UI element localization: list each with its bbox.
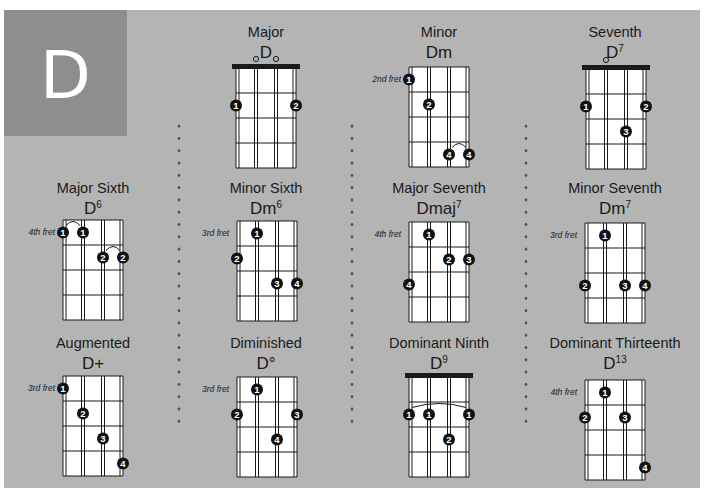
- fret-position-label: 3rd fret: [179, 384, 229, 394]
- finger-dot: 4: [463, 149, 475, 161]
- chord-name-extension: 6: [96, 199, 102, 210]
- finger-dot: 4: [117, 458, 129, 470]
- chord-diagram: 1234: [53, 366, 133, 486]
- svg-text:1: 1: [60, 227, 66, 238]
- svg-text:1: 1: [426, 229, 432, 240]
- svg-text:4: 4: [406, 279, 412, 290]
- finger-dot: 2: [97, 252, 109, 264]
- fret-position-label: 2nd fret: [351, 74, 401, 84]
- svg-text:4: 4: [642, 462, 648, 473]
- dotted-separator: [524, 120, 528, 432]
- svg-text:1: 1: [254, 384, 260, 395]
- chord-title: MajorD: [181, 24, 351, 61]
- svg-text:2: 2: [120, 252, 125, 263]
- svg-text:1: 1: [602, 230, 608, 241]
- chord-name: D13: [530, 351, 700, 372]
- finger-dot: 2: [579, 280, 591, 292]
- nut: [232, 64, 300, 69]
- svg-text:2: 2: [80, 408, 85, 419]
- finger-dot: 4: [271, 434, 283, 446]
- svg-text:4: 4: [642, 280, 648, 291]
- chord-diagram: 1234: [227, 367, 307, 487]
- chord-type-label: Minor Sixth: [181, 180, 351, 196]
- svg-text:1: 1: [233, 100, 239, 111]
- chord-name-extension: 7: [625, 199, 631, 210]
- finger-dot: 4: [291, 278, 303, 290]
- svg-text:1: 1: [406, 74, 412, 85]
- finger-dot: 1: [251, 384, 263, 396]
- svg-text:2: 2: [582, 280, 587, 291]
- svg-text:3: 3: [100, 433, 105, 444]
- finger-dot: 1: [57, 383, 69, 395]
- chord-name-extension: 7: [456, 199, 462, 210]
- finger-dot: 1: [599, 387, 611, 399]
- svg-text:4: 4: [466, 149, 472, 160]
- finger-dot: 1: [403, 409, 415, 421]
- finger-dot: 1: [599, 230, 611, 242]
- finger-dot: 1: [403, 74, 415, 86]
- svg-text:4: 4: [294, 278, 300, 289]
- chord-title: Minor SeventhDm7: [530, 180, 700, 217]
- finger-dot: 2: [423, 99, 435, 111]
- svg-text:3: 3: [274, 278, 279, 289]
- finger-dot: 2: [579, 412, 591, 424]
- svg-text:3: 3: [622, 412, 627, 423]
- finger-dot: 2: [117, 252, 129, 264]
- finger-dot: 1: [423, 409, 435, 421]
- chord-diagram: 12: [226, 58, 306, 178]
- chord-type-label: Dominant Thirteenth: [530, 335, 700, 351]
- svg-text:3: 3: [622, 280, 627, 291]
- finger-dot: 4: [443, 149, 455, 161]
- chord-type-label: Major Seventh: [354, 180, 524, 196]
- svg-text:4: 4: [120, 458, 126, 469]
- chord-type-label: Minor: [354, 24, 524, 40]
- finger-dot: 4: [639, 462, 651, 474]
- chord-name-extension: 13: [616, 354, 627, 365]
- svg-text:1: 1: [254, 228, 260, 239]
- finger-dot: 1: [57, 227, 69, 239]
- svg-text:4: 4: [446, 149, 452, 160]
- chord-diagram: 1112: [399, 367, 479, 487]
- svg-text:3: 3: [623, 126, 628, 137]
- fret-position-label: 4th fret: [527, 387, 577, 397]
- nut: [582, 65, 650, 70]
- finger-dot: 1: [230, 100, 242, 112]
- finger-dot: 2: [443, 434, 455, 446]
- finger-dot: 2: [231, 409, 243, 421]
- chord-type-label: Minor Seventh: [530, 180, 700, 196]
- svg-text:2: 2: [426, 99, 431, 110]
- chord-diagram: 1234: [399, 212, 479, 332]
- svg-text:2: 2: [293, 100, 298, 111]
- svg-text:2: 2: [446, 254, 451, 265]
- chord-type-label: Major: [181, 24, 351, 40]
- fret-position-label: 3rd fret: [179, 228, 229, 238]
- chord-diagram: 1122: [53, 210, 133, 330]
- svg-text:2: 2: [446, 434, 451, 445]
- finger-dot: 2: [231, 253, 243, 265]
- svg-text:1: 1: [60, 383, 66, 394]
- finger-dot: 3: [620, 126, 632, 138]
- chord-name-extension: 7: [618, 43, 624, 54]
- chord-type-label: Augmented: [8, 335, 178, 351]
- chord-type-label: Seventh: [530, 24, 700, 40]
- open-string-icon: [253, 56, 258, 61]
- chord-diagram: 1234: [575, 370, 655, 490]
- finger-dot: 1: [251, 228, 263, 240]
- svg-text:1: 1: [602, 387, 608, 398]
- svg-text:3: 3: [294, 409, 299, 420]
- chord-title: SeventhD7: [530, 24, 700, 61]
- open-string-icon: [273, 56, 278, 61]
- finger-dot: 2: [77, 408, 89, 420]
- finger-dot: 1: [580, 101, 592, 113]
- nut: [405, 373, 473, 378]
- svg-text:2: 2: [234, 253, 239, 264]
- finger-dot: 4: [639, 280, 651, 292]
- finger-dot: 3: [97, 433, 109, 445]
- chord-title: Dominant ThirteenthD13: [530, 335, 700, 372]
- svg-text:2: 2: [643, 101, 648, 112]
- svg-text:1: 1: [466, 409, 472, 420]
- finger-dot: 3: [291, 409, 303, 421]
- finger-dot: 3: [619, 412, 631, 424]
- chord-diagram: 123: [576, 59, 656, 179]
- finger-dot: 1: [77, 227, 89, 239]
